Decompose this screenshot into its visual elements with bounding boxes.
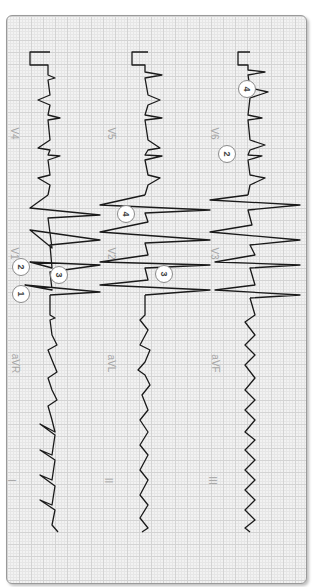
lead-label-II: II (103, 478, 114, 484)
trace-aVF-III (245, 298, 255, 532)
lead-label-aVF: aVF (210, 354, 221, 372)
lead-label-I: I (6, 479, 17, 482)
callout-4-v2: 4 (117, 205, 135, 223)
callout-2-v6: 2 (218, 145, 236, 163)
lead-label-v4: V4 (9, 127, 20, 139)
lead-label-v3: V3 (209, 247, 220, 259)
callout-3-v1: 3 (50, 266, 68, 284)
trace-v3 (210, 195, 300, 298)
lead-label-III: III (207, 476, 218, 484)
trace-v2 (100, 195, 210, 295)
trace-v4 (30, 52, 60, 195)
lead-label-v6: V6 (209, 127, 220, 139)
lead-label-v5: V5 (106, 127, 117, 139)
callout-1-v1: 1 (12, 285, 30, 303)
callout-4-v6: 4 (238, 80, 256, 98)
lead-label-aVR: aVR (10, 354, 21, 373)
callout-2-v1: 2 (12, 258, 30, 276)
trace-v5 (132, 52, 162, 195)
callout-3-v2: 3 (155, 265, 173, 283)
trace-aVL-II (138, 295, 150, 532)
lead-label-v2: V2 (106, 247, 117, 259)
lead-label-aVL: aVL (106, 355, 117, 373)
trace-aVR-I (40, 295, 58, 532)
trace-v6 (238, 52, 268, 195)
ecg-traces (0, 0, 318, 587)
